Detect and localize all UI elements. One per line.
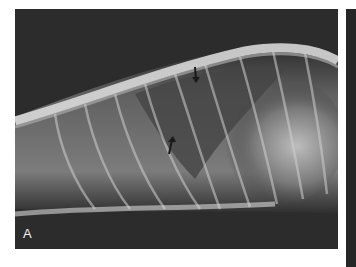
radiograph-panel-a: A: [15, 9, 338, 249]
panel-label: A: [23, 226, 32, 241]
radiograph-image: [15, 9, 338, 249]
radiograph-panel-b: [346, 9, 356, 267]
